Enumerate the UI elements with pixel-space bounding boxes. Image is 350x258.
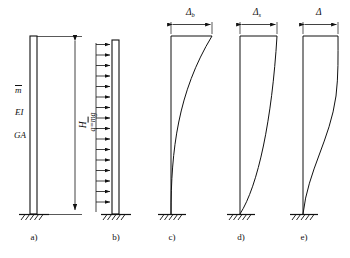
panel-b-load — [96, 40, 131, 220]
delta-symbol-e: Δ — [316, 7, 322, 17]
column-b — [112, 40, 119, 214]
panel-label-e: e) — [289, 233, 319, 242]
deflection-curve-d — [240, 36, 277, 214]
fixed-support-a — [19, 215, 49, 221]
fixed-support-e — [290, 215, 318, 221]
shear-deflection-label: Δs — [253, 8, 261, 18]
fixed-support-c — [158, 215, 186, 221]
mass-per-length-symbol: m — [15, 86, 22, 95]
panel-label-a: a) — [19, 233, 49, 242]
deflection-dimension-d — [240, 22, 277, 34]
distributed-load-arrows-b — [96, 45, 110, 203]
mass-per-length-label: m — [15, 86, 22, 95]
load-equals: = — [88, 122, 97, 127]
delta-subscript-d: s — [259, 11, 262, 18]
distributed-load-label: q=mg — [89, 112, 97, 131]
fixed-support-d — [227, 215, 255, 221]
total-deflection-label: Δ — [316, 8, 322, 18]
cantilever-deflection-figure — [0, 0, 350, 258]
flexural-rigidity-label: EI — [15, 108, 24, 117]
panel-c-bending — [158, 22, 212, 220]
panel-label-d: d) — [226, 233, 256, 242]
deflection-dimension-e — [303, 22, 338, 34]
load-symbol: q — [88, 128, 97, 132]
deflection-curve-e — [303, 36, 338, 214]
deflection-dimension-c — [171, 22, 212, 34]
delta-subscript-c: b — [192, 11, 195, 18]
load-mass-symbol: m — [89, 116, 97, 122]
panel-d-shear — [227, 22, 277, 220]
shear-rigidity-label: GA — [14, 131, 26, 140]
fixed-support-b — [101, 215, 131, 221]
column-a — [30, 36, 37, 214]
panel-a-model — [19, 36, 82, 220]
deflection-curve-c — [171, 36, 212, 214]
panel-e-total — [290, 22, 338, 220]
height-dimension-a — [37, 37, 82, 215]
panel-label-c: c) — [157, 233, 187, 242]
bending-deflection-label: Δb — [186, 8, 195, 18]
panel-label-b: b) — [101, 233, 131, 242]
